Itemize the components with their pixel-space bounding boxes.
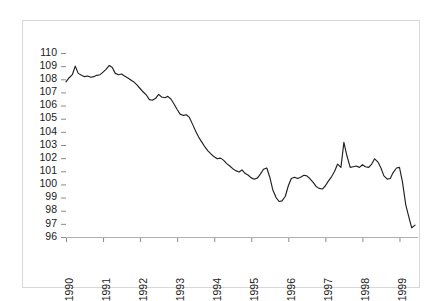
y-axis-group: 1101091081071061051041031021011009998979… (39, 46, 66, 242)
series-group (66, 65, 415, 227)
y-axis-tick-label: 110 (40, 46, 57, 58)
y-axis-tick-label: 99 (45, 190, 57, 202)
y-axis-tick-label: 101 (39, 164, 57, 176)
y-axis-tick-label: 102 (39, 151, 57, 163)
x-axis-group: 1990199119921993199419951996199719981999 (63, 237, 408, 301)
y-axis-tick-label: 96 (45, 230, 57, 242)
x-axis-tick-label: 1991 (100, 278, 112, 301)
x-axis-tick-label: 1995 (248, 278, 260, 301)
x-axis-tick-label: 1997 (322, 278, 334, 301)
x-axis-tick-label: 1999 (396, 278, 408, 301)
y-axis-tick-label: 106 (39, 98, 57, 110)
x-axis-tick-label: 1994 (211, 278, 223, 301)
y-axis-tick-label: 100 (39, 177, 57, 189)
y-axis-tick-label: 105 (39, 111, 57, 123)
x-axis-tick-label: 1998 (359, 278, 371, 301)
y-axis-tick-label: 108 (39, 72, 57, 84)
x-axis-tick-label: 1993 (174, 278, 186, 301)
y-axis-tick-label: 109 (39, 59, 57, 71)
x-axis-tick-label: 1990 (63, 278, 75, 301)
y-axis-tick-label: 98 (45, 203, 57, 215)
y-axis-tick-label: 97 (45, 217, 57, 229)
x-axis-tick-label: 1996 (285, 278, 297, 301)
x-axis-tick-label: 1992 (137, 278, 149, 301)
line-chart: 1101091081071061051041031021011009998979… (0, 0, 444, 301)
chart-container: 1101091081071061051041031021011009998979… (0, 0, 444, 301)
y-axis-tick-label: 104 (39, 125, 57, 137)
y-axis-tick-label: 103 (39, 138, 57, 150)
y-axis-tick-label: 107 (39, 85, 57, 97)
series-line-index (66, 65, 415, 227)
